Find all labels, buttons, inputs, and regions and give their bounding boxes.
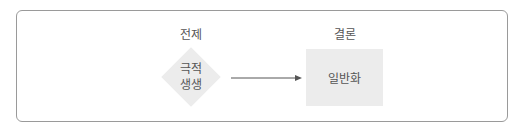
premise-line-1: 극적	[180, 61, 202, 77]
conclusion-node: 일반화	[306, 49, 383, 106]
premise-heading: 전제	[166, 25, 216, 42]
premise-line-2: 생생	[180, 77, 202, 93]
arrow-connector	[231, 72, 303, 84]
premise-text: 극적 생생	[161, 47, 221, 107]
conclusion-heading: 결론	[320, 25, 370, 42]
conclusion-text: 일반화	[328, 69, 361, 86]
diagram-frame	[16, 10, 508, 122]
premise-node: 극적 생생	[161, 47, 221, 107]
